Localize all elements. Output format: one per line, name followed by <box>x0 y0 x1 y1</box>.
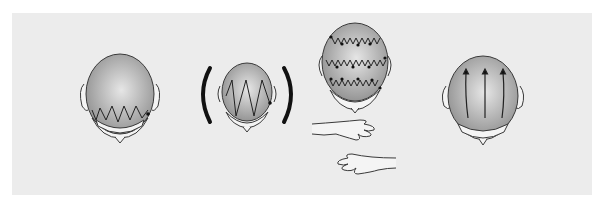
ear-right <box>388 56 391 76</box>
stroke-dot <box>268 101 272 105</box>
head-vertical-strokes <box>442 56 523 145</box>
stroke-dot <box>146 112 150 116</box>
head-zigzag-rows <box>312 23 396 174</box>
scalp <box>222 63 272 121</box>
bracket-left <box>203 68 210 122</box>
ear-right <box>274 86 276 102</box>
chin-tip <box>351 108 359 113</box>
head-zigzag-large <box>203 63 291 132</box>
bracket-right <box>284 68 291 122</box>
ear-left <box>218 86 220 102</box>
ear-left <box>319 56 322 76</box>
massage-diagram <box>0 0 606 204</box>
chin-tip <box>115 137 125 143</box>
hand-upper <box>312 120 374 140</box>
head-zigzag-lower <box>80 54 159 143</box>
chin-tip <box>479 139 487 145</box>
chin-tip <box>243 127 251 132</box>
hand-lower <box>338 154 396 174</box>
